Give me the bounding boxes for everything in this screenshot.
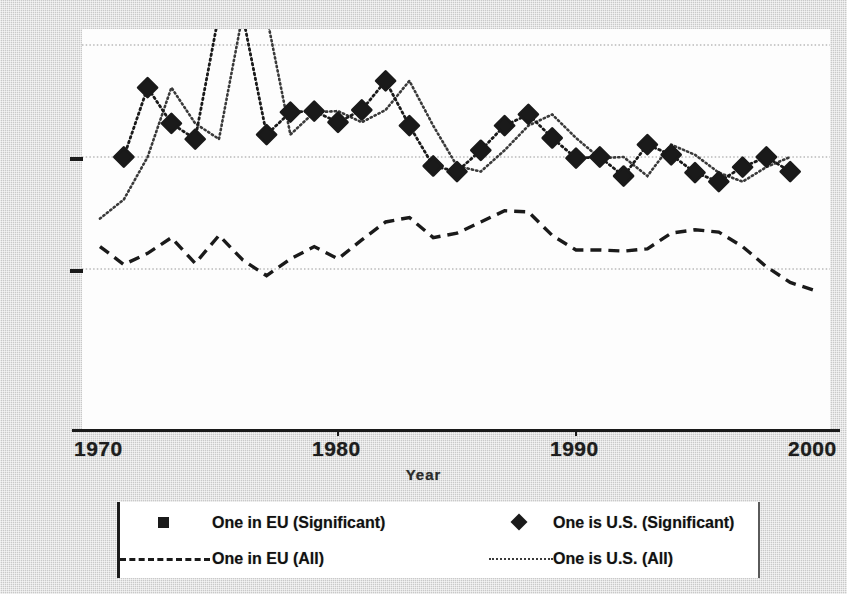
legend-label-eu-all: One in EU (All) [212,550,324,568]
x-axis-label-1970: 1970 [74,437,123,461]
dashed-line-icon [120,549,212,569]
legend-item-eu-all[interactable]: One in EU (All) [120,540,324,578]
legend-item-eu-significant[interactable]: One in EU (Significant) [120,504,385,542]
y-axis-tick-upper [70,157,83,161]
series-line-us-significant [124,29,790,182]
legend: One in EU (Significant) One is U.S. (Sig… [117,502,760,578]
plot-svg [82,29,830,429]
x-axis-label-1980: 1980 [312,437,361,461]
chart-figure: 1970198019902000 Year One in EU (Signifi… [0,0,847,594]
x-axis-line [72,429,840,432]
x-axis-title: Year [0,466,847,483]
square-marker-icon [120,513,212,533]
legend-label-us-significant: One is U.S. (Significant) [553,514,734,532]
x-axis-tick-1990 [575,429,577,436]
diamond-marker-icon [475,513,553,533]
x-axis-label-2000: 2000 [788,437,837,461]
x-axis-tick-1980 [337,429,339,436]
x-axis-label-1990: 1990 [550,437,599,461]
legend-item-us-significant[interactable]: One is U.S. (Significant) [475,504,734,542]
legend-label-us-all: One is U.S. (All) [553,550,673,568]
dotted-line-icon [475,549,553,569]
legend-label-eu-significant: One in EU (Significant) [212,514,385,532]
series-markers-us-significant [114,29,799,191]
series-line-eu-all [100,211,814,291]
gridlines [82,45,830,269]
series-line-us-all [100,29,790,219]
y-axis-tick-lower [70,269,83,273]
legend-item-us-all[interactable]: One is U.S. (All) [475,540,673,578]
plot-area [82,29,830,429]
